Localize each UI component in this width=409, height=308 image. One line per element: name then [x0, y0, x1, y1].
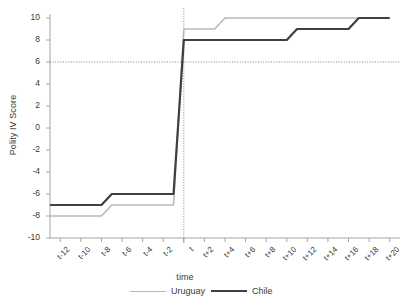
legend-line-swatch-chile: [211, 290, 247, 292]
legend-label-uruguay: Uruguay: [171, 286, 205, 296]
y-tick-label: -10: [14, 232, 40, 242]
y-tick-label: 6: [14, 56, 40, 66]
y-tick-label: -6: [14, 188, 40, 198]
chart-figure: Polity IV Score time 1086420-2-4-6-8-10 …: [0, 0, 409, 308]
chart-legend: Uruguay Chile: [130, 286, 273, 296]
y-tick-label: 0: [14, 122, 40, 132]
reference-lines: [50, 8, 400, 244]
series-line-chile: [50, 18, 390, 205]
data-series: [50, 18, 390, 216]
legend-item-uruguay: Uruguay: [130, 286, 205, 296]
legend-line-swatch-uruguay: [130, 291, 166, 292]
y-tick-label: -2: [14, 144, 40, 154]
y-tick-label: 10: [14, 12, 40, 22]
y-tick-label: -8: [14, 210, 40, 220]
y-tick-label: 4: [14, 78, 40, 88]
y-tick-label: 8: [14, 34, 40, 44]
y-tick-label: 2: [14, 100, 40, 110]
y-tick-label: -4: [14, 166, 40, 176]
axis-lines: [46, 14, 400, 242]
legend-label-chile: Chile: [252, 286, 273, 296]
legend-item-chile: Chile: [211, 286, 273, 296]
series-line-uruguay: [50, 18, 390, 216]
